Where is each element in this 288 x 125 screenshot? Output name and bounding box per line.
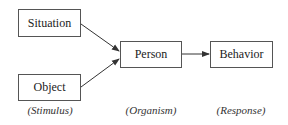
situation-node: Situation	[18, 9, 81, 37]
person-node: Person	[120, 41, 182, 68]
object-node: Object	[18, 74, 81, 101]
situation-label: Situation	[28, 16, 71, 31]
behavior-label: Behavior	[220, 47, 264, 62]
response-caption: (Response)	[208, 104, 274, 116]
organism-caption: (Organism)	[118, 104, 184, 116]
arrow-object-to-person	[81, 59, 119, 87]
person-label: Person	[135, 47, 168, 62]
object-label: Object	[34, 80, 66, 95]
stimulus-caption: (Stimulus)	[18, 104, 82, 116]
arrow-situation-to-person	[81, 24, 119, 51]
behavior-node: Behavior	[210, 41, 273, 68]
